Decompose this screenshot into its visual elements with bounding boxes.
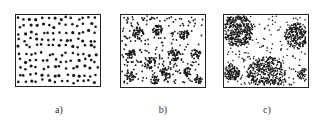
segregated-distribution-box: [223, 14, 309, 88]
panel-label-b: b): [148, 104, 178, 115]
clustered-distribution-box: [120, 14, 206, 88]
uniform-distribution-box: [15, 14, 101, 87]
dot-field: [224, 15, 307, 86]
dot-field: [121, 15, 204, 86]
dot-field: [16, 15, 99, 85]
panel-label-a: a): [44, 104, 74, 115]
panel-label-c: c): [252, 104, 282, 115]
